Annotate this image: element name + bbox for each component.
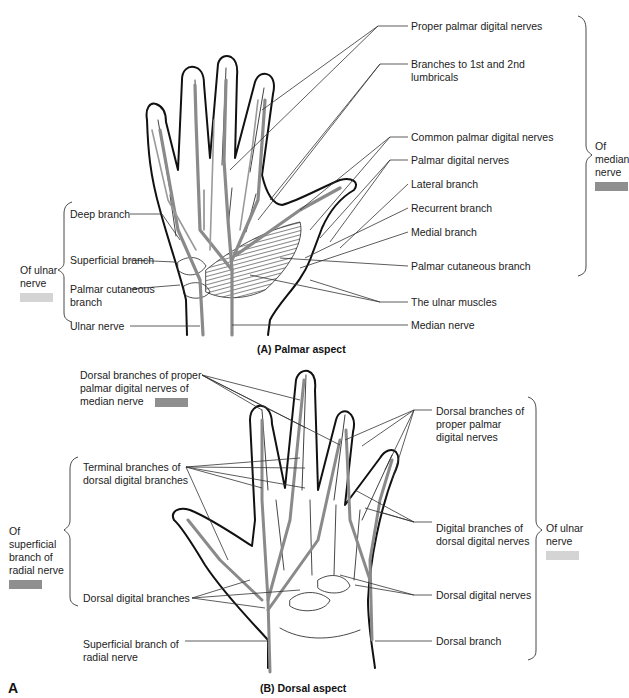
label-deep-branch: Deep branch [70,208,130,221]
label-common-palmar-digital-nerves: Common palmar digital nerves [411,131,553,144]
label-proper-palmar-digital-nerves: Proper palmar digital nerves [411,20,542,33]
label-dorsal-branches-median: Dorsal branches of proper palmar digital… [80,369,205,408]
dorsal-hand [173,371,398,672]
label-palmar-cutaneous-branch-median: Palmar cutaneous branch [411,260,531,273]
label-dorsal-branch: Dorsal branch [436,635,501,648]
label-medial-branch: Medial branch [411,226,477,239]
label-dorsal-branches-proper-palmar: Dorsal branches of proper palmar digital… [436,405,526,444]
median-color-swatch [595,182,628,191]
caption-dorsal-aspect: (B) Dorsal aspect [260,682,346,694]
label-lateral-branch: Lateral branch [411,178,478,191]
label-terminal-branches: Terminal branches of dorsal digital bran… [83,461,193,487]
median-color-swatch-dorsal [155,398,188,407]
group-label-ulnar-nerve-dorsal: Of ulnar nerve [546,522,586,560]
label-branches-to-lumbricals: Branches to 1st and 2nd lumbricals [411,58,541,84]
label-digital-branches-dorsal: Digital branches of dorsal digital nerve… [436,522,534,548]
group-label-radial-nerve: Of superficial branch of radial nerve [9,525,67,589]
radial-color-swatch [9,580,42,589]
palmar-hand [147,56,356,335]
label-ulnar-muscles: The ulnar muscles [411,296,497,309]
label-superficial-branch: Superficial branch [70,254,154,267]
label-palmar-digital-nerves: Palmar digital nerves [411,154,509,167]
label-recurrent-branch: Recurrent branch [411,202,492,215]
group-label-ulnar-nerve-palmar: Of ulnar nerve [20,264,60,302]
caption-palmar-aspect: (A) Palmar aspect [257,343,346,355]
ulnar-color-swatch [20,293,53,302]
dorsal-right-leaders [340,410,432,641]
group-label-median-nerve: Of median nerve [595,140,622,191]
panel-letter: A [8,680,18,696]
label-median-nerve: Median nerve [411,319,475,332]
label-dorsal-digital-branches: Dorsal digital branches [83,592,190,605]
label-dorsal-digital-nerves: Dorsal digital nerves [436,589,531,602]
label-superficial-branch-radial: Superficial branch of radial nerve [83,638,188,664]
median-bracket [578,16,592,276]
ulnar-color-swatch-dorsal [546,551,579,560]
label-palmar-cutaneous-branch-ulnar: Palmar cutaneous branch [70,283,155,309]
label-ulnar-nerve: Ulnar nerve [70,320,124,333]
